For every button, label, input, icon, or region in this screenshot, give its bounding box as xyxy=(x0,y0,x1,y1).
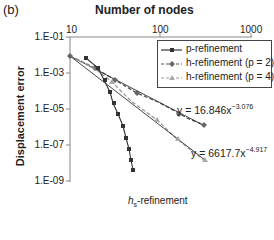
equation-text: y = 16.846x xyxy=(177,104,232,116)
legend-item-h-refinement-p2: h-refinement (p = 2) xyxy=(186,57,274,68)
trendline-equation-p4: y = 6617.7x−4.917 xyxy=(191,146,267,159)
legend: p-refinement h-refinement (p = 2) h-refi… xyxy=(157,40,272,88)
legend-item-p-refinement: p-refinement xyxy=(186,43,242,54)
hs-refinement-annotation: hs-refinement xyxy=(128,195,188,208)
annotation-rest: -refinement xyxy=(137,195,188,206)
equation-text: y = 6617.7x xyxy=(191,147,246,159)
trendline-equation-p2: y = 16.846x−3.076 xyxy=(177,103,253,116)
equation-exponent: −4.917 xyxy=(246,146,268,153)
legend-item-h-refinement-p4: h-refinement (p = 4) xyxy=(186,71,274,82)
equation-exponent: −3.076 xyxy=(232,103,254,110)
